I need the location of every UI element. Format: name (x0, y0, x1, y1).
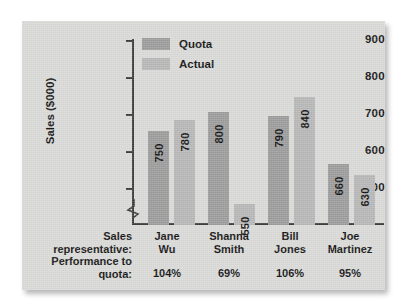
table-cell-pct-1: 104% (135, 267, 199, 280)
bar-quota-shanna-smith: 800 (208, 112, 229, 225)
bar-value-label: 780 (179, 133, 191, 152)
bar-value-label: 660 (333, 177, 345, 196)
y-axis-title: Sales ($000) (44, 61, 56, 161)
bar-actual-jane-wu: 780 (174, 120, 195, 225)
row-header-representative-line1: Sales (28, 230, 132, 243)
name-line1: Shanna (197, 230, 261, 243)
table-cell-name-2: Shanna Smith (197, 230, 261, 255)
bar-value-label: 750 (153, 144, 165, 163)
name-line2: Smith (197, 243, 261, 256)
table-cell-pct-2: 69% (197, 267, 261, 280)
table-cell-name-4: Joe Martinez (318, 230, 382, 255)
name-line1: Bill (258, 230, 322, 243)
table-cell-pct-4: 95% (318, 267, 382, 280)
bar-quota-bill-jones: 790 (268, 116, 289, 225)
bar-group-container: 750 780 800 550 790 840 (132, 39, 384, 225)
table-cell-name-1: Jane Wu (135, 230, 199, 255)
name-line1: Joe (318, 230, 382, 243)
bar-actual-joe-martinez: 630 (354, 175, 375, 225)
chart-plot-area: Sales ($000) 900 800 700 600 500 Quota (22, 21, 385, 290)
bar-value-label: 800 (213, 125, 225, 144)
chart-data-table: Sales representative: Performance to quo… (22, 227, 385, 285)
bar-quota-jane-wu: 750 (148, 131, 169, 225)
name-line2: Martinez (318, 243, 382, 256)
row-header-performance: Performance to quota: (28, 255, 132, 280)
bar-value-label: 630 (359, 188, 371, 207)
bar-actual-shanna-smith: 550 (234, 204, 255, 225)
bar-quota-joe-martinez: 660 (328, 164, 349, 225)
row-header-performance-line1: Performance to (28, 255, 132, 268)
row-header-representative: Sales representative: (28, 230, 132, 255)
name-line2: Jones (258, 243, 322, 256)
bar-value-label: 840 (299, 110, 311, 129)
name-line2: Wu (135, 243, 199, 256)
row-header-representative-line2: representative: (28, 243, 132, 256)
bar-value-label: 790 (273, 129, 285, 148)
name-line1: Jane (135, 230, 199, 243)
row-header-performance-line2: quota: (28, 268, 132, 281)
table-cell-name-3: Bill Jones (258, 230, 322, 255)
screenshot-root: Sales ($000) 900 800 700 600 500 Quota (0, 0, 410, 308)
chart-panel: Sales ($000) 900 800 700 600 500 Quota (22, 21, 385, 290)
bar-actual-bill-jones: 840 (294, 97, 315, 225)
table-cell-pct-3: 106% (258, 267, 322, 280)
